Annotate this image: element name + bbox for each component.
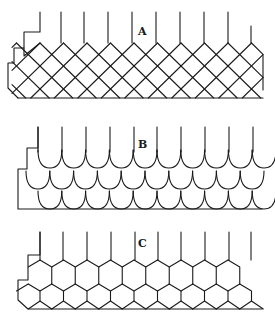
panel-c-label: C <box>138 238 147 249</box>
figure-drawing <box>0 0 275 319</box>
panel-a-label: A <box>138 26 147 37</box>
panel-a-diamond-pattern <box>8 12 263 98</box>
panel-b-label: B <box>138 139 147 150</box>
shingle-pattern-figure: A B C <box>0 0 275 319</box>
